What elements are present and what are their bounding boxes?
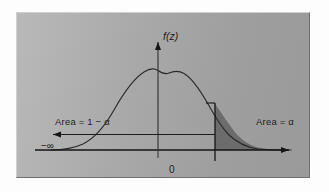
fz-axis-label: f(z) <box>163 31 178 42</box>
shaded-tail-region <box>215 104 291 150</box>
negative-infinity-label: −∞ <box>41 141 54 151</box>
normal-density-curve <box>51 69 291 150</box>
area-left-label: Area = 1 − α <box>55 117 110 127</box>
plot-panel: f(z) Area = 1 − α Area = α −∞ 0 z zα <box>16 12 310 178</box>
z-alpha-base: z <box>224 175 229 178</box>
origin-label: 0 <box>169 165 175 175</box>
figure-root: f(z) Area = 1 − α Area = α −∞ 0 z zα <box>0 0 329 192</box>
shaded-tail-fill <box>215 104 291 150</box>
area-right-label: Area = α <box>256 117 294 127</box>
z-alpha-label: zα <box>224 176 233 178</box>
